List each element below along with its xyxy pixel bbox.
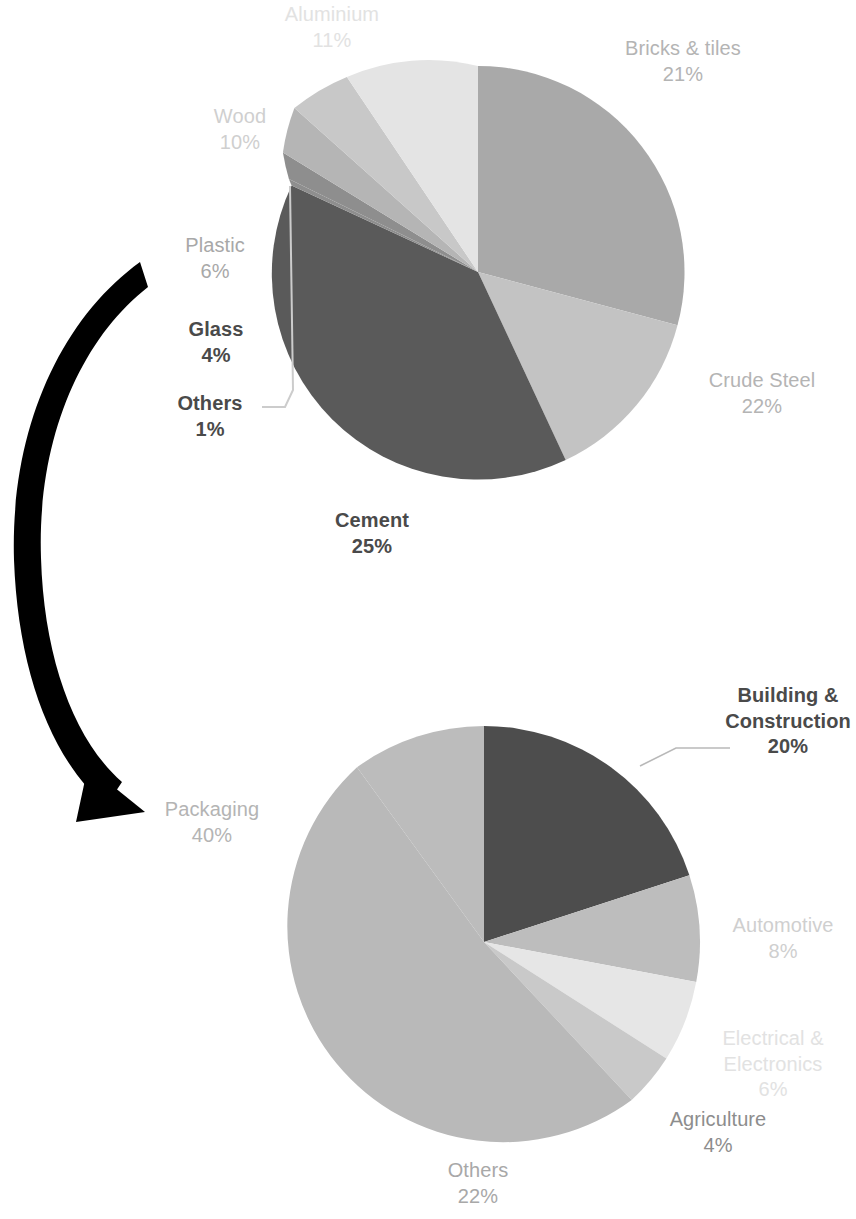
pie2-label-agriculture-name: Agriculture xyxy=(638,1107,798,1133)
pie1-label-others-pct: 1% xyxy=(140,417,280,443)
pie2-label-agriculture-pct: 4% xyxy=(638,1133,798,1159)
pie1-label-bricks-and-tiles: Bricks & tiles 21% xyxy=(578,36,788,87)
plastics-enduse-pie-slices xyxy=(287,726,700,1142)
materials-pie-slices xyxy=(272,60,685,480)
pie1-label-crude-steel-name: Crude Steel xyxy=(672,368,852,394)
pie2-label-others-pct: 22% xyxy=(398,1184,558,1210)
pie1-label-others: Others 1% xyxy=(140,391,280,442)
pie1-label-glass-pct: 4% xyxy=(146,343,286,369)
pie1-label-bricks-and-tiles-name: Bricks & tiles xyxy=(578,36,788,62)
pie2-label-building-construction-line2: Construction xyxy=(718,709,856,735)
pie2-label-electrical-electronics-line1: Electrical & xyxy=(688,1026,856,1052)
pie2-label-packaging: Packaging 40% xyxy=(132,797,292,848)
pie2-label-packaging-pct: 40% xyxy=(132,823,292,849)
pie1-label-crude-steel: Crude Steel 22% xyxy=(672,368,852,419)
curved-down-arrow-icon xyxy=(14,262,148,822)
pie1-label-cement-name: Cement xyxy=(292,508,452,534)
pie2-label-building-construction: Building & Construction 20% xyxy=(718,683,856,760)
pie1-label-wood-name: Wood xyxy=(165,104,315,130)
pie1-label-aluminium: Aluminium 11% xyxy=(232,2,432,53)
pie1-label-plastic: Plastic 6% xyxy=(140,233,290,284)
pie1-label-wood-pct: 10% xyxy=(165,130,315,156)
pie1-label-bricks-and-tiles-pct: 21% xyxy=(578,62,788,88)
leader-line-building-construction xyxy=(640,748,730,766)
pie1-label-aluminium-pct: 11% xyxy=(232,28,432,54)
pie2-label-automotive: Automotive 8% xyxy=(708,913,856,964)
pie2-label-electrical-electronics-pct: 6% xyxy=(688,1077,856,1103)
pie1-label-glass: Glass 4% xyxy=(146,317,286,368)
pie2-label-others: Others 22% xyxy=(398,1158,558,1209)
pie1-label-cement: Cement 25% xyxy=(292,508,452,559)
pie1-label-plastic-name: Plastic xyxy=(140,233,290,259)
pie2-label-electrical-electronics-line2: Electronics xyxy=(688,1052,856,1078)
pie2-label-agriculture: Agriculture 4% xyxy=(638,1107,798,1158)
pie1-label-plastic-pct: 6% xyxy=(140,259,290,285)
pie2-label-building-construction-line1: Building & xyxy=(718,683,856,709)
pie2-label-electrical-electronics: Electrical & Electronics 6% xyxy=(688,1026,856,1103)
pie1-label-aluminium-name: Aluminium xyxy=(232,2,432,28)
pie2-label-packaging-name: Packaging xyxy=(132,797,292,823)
pie2-label-automotive-name: Automotive xyxy=(708,913,856,939)
two-pie-chart-figure: Aluminium 11% Bricks & tiles 21% Wood 10… xyxy=(0,0,856,1219)
pie1-label-crude-steel-pct: 22% xyxy=(672,394,852,420)
pie2-label-others-name: Others xyxy=(398,1158,558,1184)
pie2-label-automotive-pct: 8% xyxy=(708,939,856,965)
pie1-label-glass-name: Glass xyxy=(146,317,286,343)
pie1-label-others-name: Others xyxy=(140,391,280,417)
pie1-label-wood: Wood 10% xyxy=(165,104,315,155)
pie2-label-building-construction-pct: 20% xyxy=(718,734,856,760)
pie1-label-cement-pct: 25% xyxy=(292,534,452,560)
